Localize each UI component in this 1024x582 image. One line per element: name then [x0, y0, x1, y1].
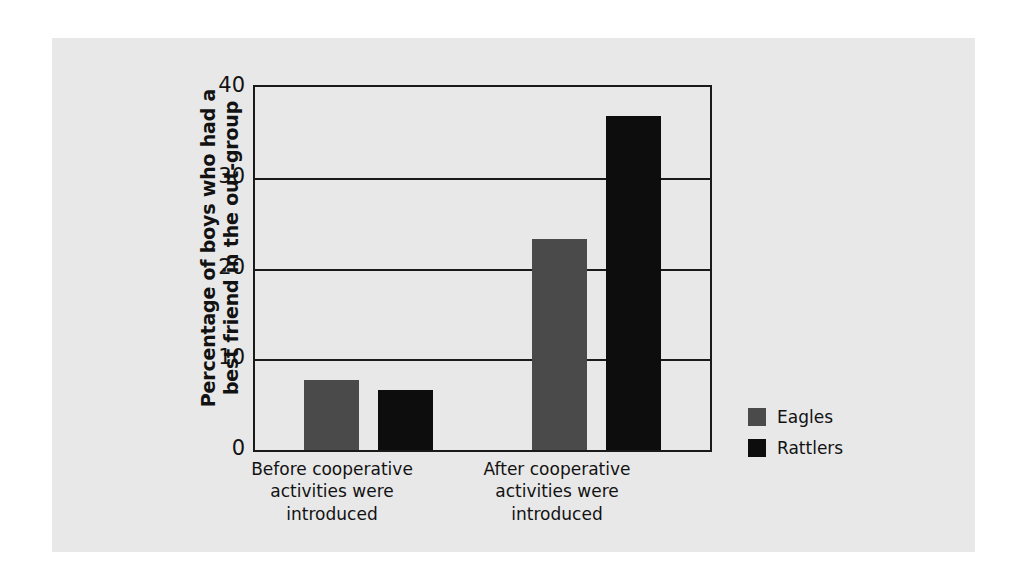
y-tick-label-0: 0 — [201, 436, 245, 460]
legend-item-eagles: Eagles — [748, 407, 908, 427]
legend-label-eagles: Eagles — [777, 407, 833, 427]
bar-eagles-group-0 — [304, 380, 359, 450]
y-tick-label-30: 30 — [201, 164, 245, 188]
x-axis-group-label-1: After cooperative activities were introd… — [437, 458, 677, 525]
y-tick-label-10: 10 — [201, 345, 245, 369]
legend: Eagles Rattlers — [748, 407, 908, 469]
x-axis-group-label-0: Before cooperative activities were intro… — [212, 458, 452, 525]
y-axis-tick-labels: 010203040 — [191, 85, 245, 452]
legend-label-rattlers: Rattlers — [777, 438, 843, 458]
legend-item-rattlers: Rattlers — [748, 438, 908, 458]
legend-swatch-eagles — [748, 408, 766, 426]
y-tick-label-40: 40 — [201, 73, 245, 97]
bar-rattlers-group-0 — [378, 390, 433, 450]
plot-area — [253, 85, 712, 452]
legend-swatch-rattlers — [748, 439, 766, 457]
bar-rattlers-group-1 — [606, 116, 661, 450]
y-tick-label-20: 20 — [201, 255, 245, 279]
figure-panel: Percentage of boys who had a best friend… — [52, 38, 975, 552]
bar-eagles-group-1 — [532, 239, 587, 450]
